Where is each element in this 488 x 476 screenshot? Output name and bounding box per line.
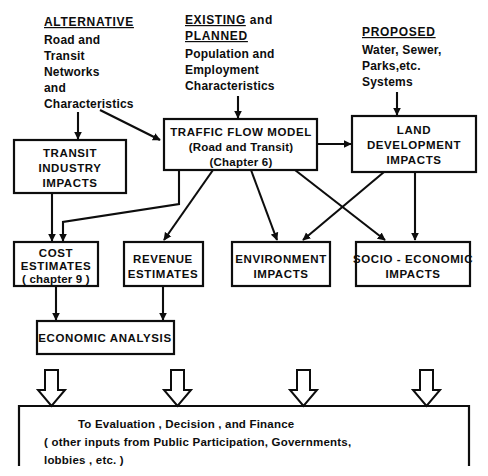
header-existing-line-3: Characteristics: [185, 79, 275, 93]
header-proposed-line-1: Water, Sewer,: [362, 43, 442, 57]
diagram-canvas: ALTERNATIVE Road and Transit Networks an…: [0, 0, 488, 476]
box-cost-estimates: COST ESTIMATES ( chapter 9 ): [14, 242, 98, 286]
header-alternative-line-4: and: [44, 81, 66, 95]
hollow-down-arrow-2: [164, 370, 191, 406]
box-traffic-flow-model-line-2: (Road and Transit): [189, 141, 294, 153]
connector-tfm-to-socio: [295, 170, 385, 240]
box-revenue-estimates-line-1: REVENUE: [133, 253, 193, 265]
box-land-development-line-3: IMPACTS: [386, 154, 441, 166]
box-cost-estimates-line-1: COST: [39, 247, 73, 259]
header-alternative-line-5: Characteristics: [44, 97, 134, 111]
header-existing-line-2: Employment: [185, 63, 259, 77]
box-economic-analysis-line-1: ECONOMIC ANALYSIS: [38, 332, 171, 344]
header-alternative-line-1: Road and: [44, 33, 100, 47]
hollow-down-arrow-4: [413, 370, 440, 406]
header-existing-title-suffix: and: [246, 13, 273, 27]
footer-line-3: lobbies , etc. ): [44, 454, 124, 466]
box-transit-industry-line-1: TRANSIT: [43, 147, 97, 159]
header-proposed-line-3: Systems: [362, 75, 413, 89]
box-revenue-estimates: REVENUE ESTIMATES: [124, 242, 203, 286]
box-traffic-flow-model-line-1: TRAFFIC FLOW MODEL: [170, 126, 312, 138]
box-transit-industry-line-3: IMPACTS: [42, 177, 97, 189]
header-alternative-title: ALTERNATIVE: [44, 15, 134, 29]
header-existing-line-1: Population and: [185, 47, 274, 61]
box-socio-economic-line-2: IMPACTS: [385, 268, 440, 280]
box-revenue-estimates-line-2: ESTIMATES: [128, 268, 198, 280]
box-socio-economic-line-1: SOCIO - ECONOMIC: [353, 253, 473, 265]
box-traffic-flow-model: TRAFFIC FLOW MODEL (Road and Transit) (C…: [164, 119, 317, 170]
header-alternative: ALTERNATIVE Road and Transit Networks an…: [44, 15, 134, 111]
box-transit-industry-line-2: INDUSTRY: [38, 162, 101, 174]
header-planned-title: PLANNED: [185, 29, 248, 43]
connector-tfm-to-environment: [251, 170, 277, 240]
box-environment-impacts-line-2: IMPACTS: [253, 268, 308, 280]
box-land-development-impacts: LAND DEVELOPMENT IMPACTS: [352, 116, 476, 172]
connector-alternative-to-tfm: [100, 110, 160, 140]
flow-diagram: ALTERNATIVE Road and Transit Networks an…: [0, 0, 488, 476]
box-socio-economic-impacts: SOCIO - ECONOMIC IMPACTS: [353, 242, 473, 286]
header-alternative-line-2: Transit: [44, 49, 85, 63]
box-cost-estimates-line-2: ESTIMATES: [21, 260, 91, 272]
box-cost-estimates-line-3: ( chapter 9 ): [22, 273, 90, 285]
header-proposed-title: PROPOSED: [362, 25, 436, 39]
hollow-down-arrow-3: [290, 370, 317, 406]
header-proposed: PROPOSED Water, Sewer, Parks,etc. System…: [362, 25, 442, 89]
box-environment-impacts-line-1: ENVIRONMENT: [235, 253, 327, 265]
header-alternative-line-3: Networks: [44, 65, 100, 79]
box-land-development-line-1: LAND: [397, 124, 431, 136]
hollow-down-arrow-1: [38, 370, 65, 406]
header-proposed-line-2: Parks,etc.: [362, 59, 421, 73]
footer-evaluation-decision-finance: To Evaluation , Decision , and Finance (…: [19, 406, 469, 466]
box-transit-industry-impacts: TRANSIT INDUSTRY IMPACTS: [14, 140, 126, 193]
header-existing-planned: EXISTING and PLANNED Population and Empl…: [185, 13, 275, 93]
box-economic-analysis: ECONOMIC ANALYSIS: [37, 321, 174, 354]
hollow-arrow-group: [38, 370, 440, 406]
box-traffic-flow-model-line-3: (Chapter 6): [210, 156, 273, 168]
header-existing-title: EXISTING: [185, 13, 246, 27]
header-existing-title-row: EXISTING and: [185, 13, 273, 27]
footer-line-2: ( other inputs from Public Participation…: [44, 436, 351, 448]
box-environment-impacts: ENVIRONMENT IMPACTS: [232, 242, 330, 286]
footer-line-1: To Evaluation , Decision , and Finance: [78, 418, 294, 430]
box-land-development-line-2: DEVELOPMENT: [367, 139, 461, 151]
